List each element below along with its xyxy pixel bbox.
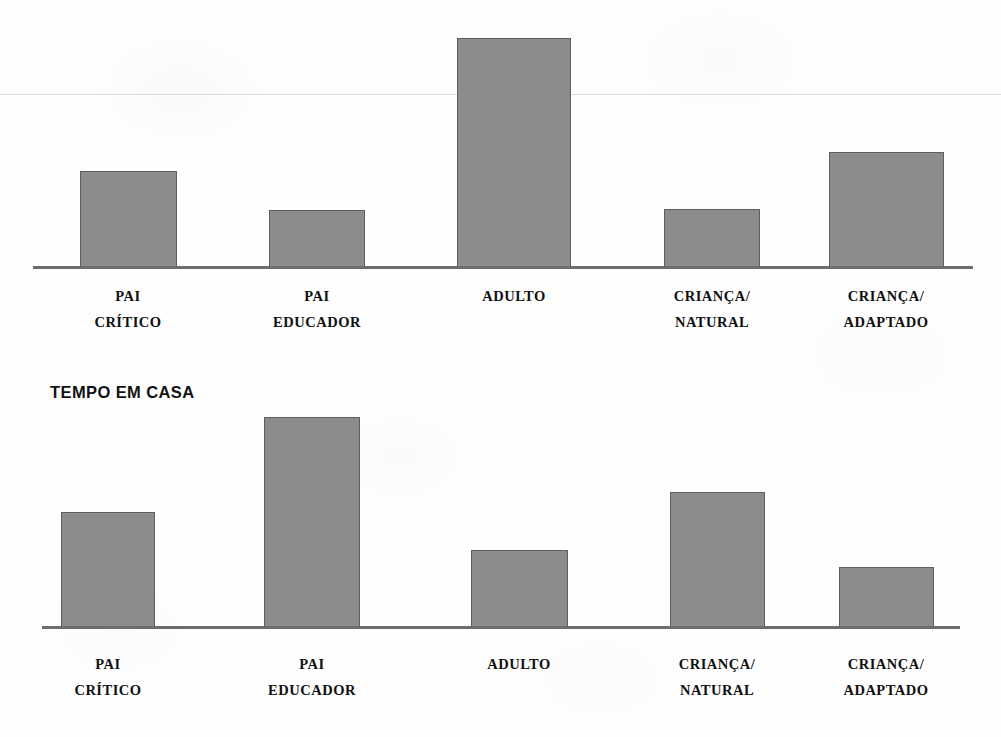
x-axis-label-line1: CRIANÇA/: [776, 283, 996, 309]
x-axis-label: ADULTO: [404, 283, 624, 309]
x-axis-label-line1: PAI: [18, 283, 238, 309]
bar: [80, 171, 177, 268]
bar: [829, 152, 944, 268]
x-axis-label-line2: ADAPTADO: [776, 677, 996, 703]
x-axis-label-line2: EDUCADOR: [207, 309, 427, 335]
x-axis-label-line2: CRÍTICO: [18, 309, 238, 335]
bar: [839, 567, 934, 628]
x-axis-label: PAICRÍTICO: [0, 651, 218, 703]
chart-title-tempo-em-casa: TEMPO EM CASA: [50, 383, 195, 402]
x-axis-line: [42, 626, 960, 629]
bar: [269, 210, 365, 268]
x-axis-label: ADULTO: [409, 651, 629, 677]
bar: [670, 492, 765, 628]
x-axis-label: CRIANÇA/ADAPTADO: [776, 651, 996, 703]
x-axis-label: CRIANÇA/ADAPTADO: [776, 283, 996, 335]
x-axis-label: PAIEDUCADOR: [202, 651, 422, 703]
x-axis-label-line1: PAI: [207, 283, 427, 309]
x-axis-label-line2: EDUCADOR: [202, 677, 422, 703]
x-axis-label-line1: CRIANÇA/: [776, 651, 996, 677]
bar: [471, 550, 568, 628]
x-axis-label-line1: ADULTO: [409, 651, 629, 677]
bar: [264, 417, 360, 628]
bar: [61, 512, 155, 628]
x-axis-label-line2: ADAPTADO: [776, 309, 996, 335]
x-axis-label-line1: ADULTO: [404, 283, 624, 309]
x-axis-label: PAICRÍTICO: [18, 283, 238, 335]
bar: [664, 209, 760, 268]
x-axis-label-line2: CRÍTICO: [0, 677, 218, 703]
bar: [457, 38, 571, 268]
x-axis-label-line1: PAI: [202, 651, 422, 677]
x-axis-label: PAIEDUCADOR: [207, 283, 427, 335]
x-axis-line: [33, 266, 973, 269]
x-axis-label-line1: PAI: [0, 651, 218, 677]
